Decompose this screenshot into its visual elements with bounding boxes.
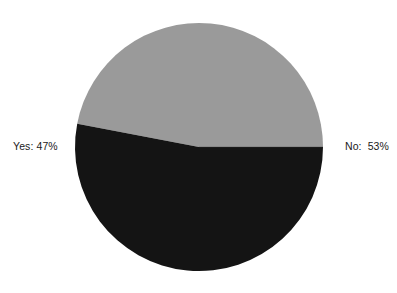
pie-slices: [75, 23, 323, 271]
pie-chart-canvas: [0, 0, 397, 293]
pie-label-no: No: 53%: [345, 141, 389, 152]
pie-chart-figure: Yes: 47% No: 53%: [0, 0, 397, 293]
pie-label-yes: Yes: 47%: [13, 141, 58, 152]
